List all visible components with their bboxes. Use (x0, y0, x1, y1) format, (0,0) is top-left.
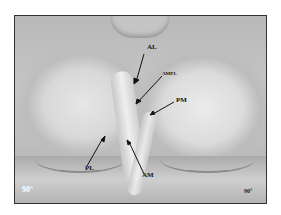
arrow-pl (87, 138, 103, 166)
arrow-ampl (138, 76, 162, 102)
label-pl: PL (85, 165, 94, 172)
arrow-pm (153, 102, 174, 114)
arrowhead-al (134, 78, 139, 84)
arrow-am (129, 142, 144, 174)
angle-label-left: 90° (22, 186, 33, 194)
label-ampl: AMPL (162, 71, 177, 76)
label-al: AL (147, 44, 157, 51)
arrowhead-pm (150, 111, 155, 115)
label-am: AM (142, 172, 154, 179)
label-pm: PM (176, 97, 187, 104)
angle-label-right: 90° (244, 188, 252, 194)
arrow-al (136, 54, 144, 82)
anatomical-photo: AL AMPL PM PL AM 90° 90° (14, 15, 267, 204)
label-arrows (15, 16, 266, 203)
